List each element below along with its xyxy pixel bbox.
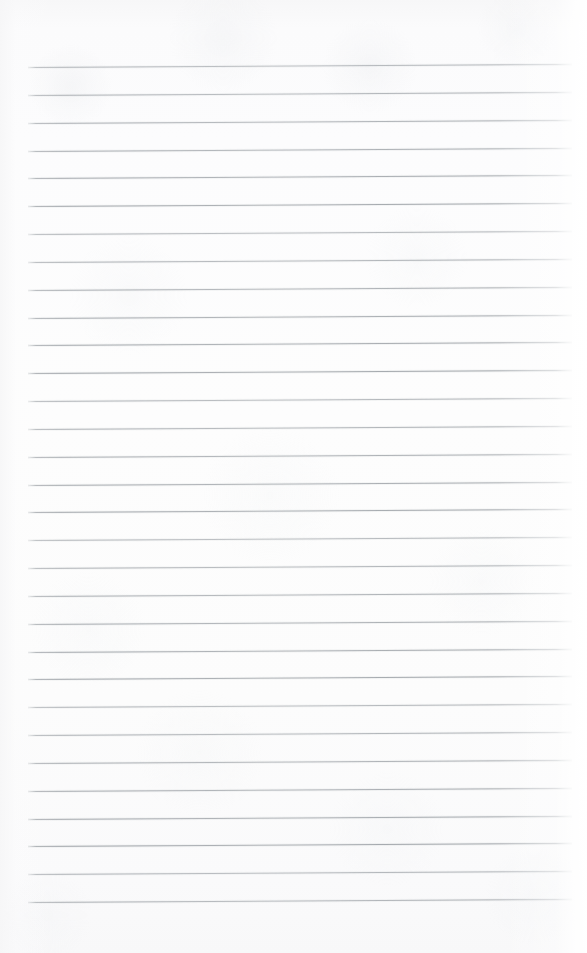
ruled-line	[28, 398, 572, 402]
ruled-line	[28, 259, 572, 263]
scanned-page	[0, 0, 587, 953]
ruled-line	[28, 816, 572, 820]
ruled-line	[28, 843, 572, 847]
ruled-line	[28, 509, 572, 513]
ruled-line	[28, 370, 572, 374]
ruled-line	[28, 537, 572, 541]
ruled-line	[28, 871, 572, 875]
ruled-line	[28, 732, 572, 736]
ruled-line	[28, 649, 572, 653]
ruled-line	[28, 621, 572, 625]
ruled-line	[28, 593, 572, 597]
ruled-lines-layer	[0, 0, 587, 953]
ruled-line	[28, 760, 572, 764]
ruled-line	[28, 92, 572, 96]
ruled-line	[28, 315, 572, 319]
ruled-line	[28, 899, 572, 903]
ruled-line	[28, 120, 572, 124]
ruled-line	[28, 426, 572, 430]
ruled-line	[28, 175, 572, 179]
ruled-line	[28, 287, 572, 291]
ruled-line	[28, 454, 572, 458]
ruled-line	[28, 148, 572, 152]
ruled-line	[28, 704, 572, 708]
ruled-line	[28, 203, 572, 207]
ruled-line	[28, 342, 572, 346]
ruled-line	[28, 788, 572, 792]
ruled-line	[28, 64, 572, 68]
ruled-line	[28, 231, 572, 235]
ruled-line	[28, 676, 572, 680]
ruled-line	[28, 565, 572, 569]
ruled-line	[28, 482, 572, 486]
